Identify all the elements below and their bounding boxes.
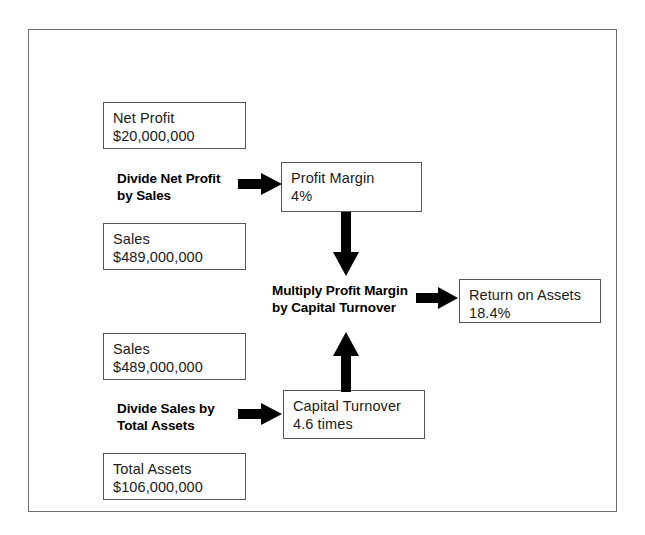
operation-divide-sales-line2: Total Assets <box>117 417 215 434</box>
operation-divide-sales-line1: Divide Sales by <box>117 400 215 417</box>
node-capital-turnover-value: 4.6 times <box>293 415 424 433</box>
node-sales-top-value: $489,000,000 <box>113 248 245 266</box>
node-net-profit-label: Net Profit <box>113 109 245 127</box>
node-total-assets: Total Assets $106,000,000 <box>103 453 246 500</box>
operation-divide-sales-by-total-assets: Divide Sales by Total Assets <box>117 400 215 434</box>
operation-divide-net-profit-by-sales: Divide Net Profit by Sales <box>117 170 220 204</box>
node-capital-turnover-label: Capital Turnover <box>293 397 424 415</box>
node-return-on-assets-label: Return on Assets <box>469 286 600 304</box>
node-profit-margin-label: Profit Margin <box>291 169 421 187</box>
operation-divide-net-profit-line2: by Sales <box>117 187 220 204</box>
operation-divide-net-profit-line1: Divide Net Profit <box>117 170 220 187</box>
operation-multiply-line1: Multiply Profit Margin <box>272 282 408 299</box>
diagram-frame: Net Profit $20,000,000 Sales $489,000,00… <box>28 29 617 512</box>
node-return-on-assets-value: 18.4% <box>469 304 600 322</box>
node-return-on-assets: Return on Assets 18.4% <box>459 279 601 323</box>
arrow-right-icon-sales-to-capital-turnover <box>238 403 282 425</box>
node-sales-bottom: Sales $489,000,000 <box>103 333 246 380</box>
arrow-right-icon-net-profit-to-profit-margin <box>238 173 282 195</box>
operation-multiply-line2: by Capital Turnover <box>272 299 408 316</box>
node-profit-margin: Profit Margin 4% <box>281 162 422 212</box>
arrow-up-icon-capital-turnover-to-multiply <box>333 332 359 392</box>
node-sales-bottom-value: $489,000,000 <box>113 358 245 376</box>
arrow-down-icon-profit-margin-to-multiply <box>333 212 359 276</box>
arrow-right-icon-multiply-to-return-on-assets <box>416 287 458 309</box>
operation-multiply-profit-margin-by-capital-turnover: Multiply Profit Margin by Capital Turnov… <box>272 282 408 316</box>
node-net-profit: Net Profit $20,000,000 <box>103 102 246 149</box>
node-net-profit-value: $20,000,000 <box>113 127 245 145</box>
diagram-canvas: Net Profit $20,000,000 Sales $489,000,00… <box>0 0 645 535</box>
node-total-assets-value: $106,000,000 <box>113 478 245 496</box>
node-profit-margin-value: 4% <box>291 187 421 205</box>
node-sales-bottom-label: Sales <box>113 340 245 358</box>
node-capital-turnover: Capital Turnover 4.6 times <box>283 390 425 439</box>
node-sales-top: Sales $489,000,000 <box>103 223 246 270</box>
node-sales-top-label: Sales <box>113 230 245 248</box>
node-total-assets-label: Total Assets <box>113 460 245 478</box>
